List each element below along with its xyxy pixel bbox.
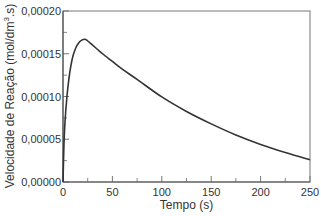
y-tick-label: 0,00000 xyxy=(21,176,61,188)
major-ticks xyxy=(63,11,310,182)
x-tick-labels: 050100150200250 xyxy=(60,186,319,198)
y-tick-label: 0,00015 xyxy=(21,48,61,60)
rate-curve xyxy=(63,39,310,182)
y-tick-label: 0,00010 xyxy=(21,91,61,103)
minor-ticks xyxy=(63,32,285,182)
y-tick-label: 0,00005 xyxy=(21,133,61,145)
x-tick-label: 150 xyxy=(202,186,220,198)
x-tick-label: 100 xyxy=(153,186,171,198)
plot-frame xyxy=(63,11,310,182)
x-tick-label: 200 xyxy=(251,186,269,198)
y-tick-label: 0,00020 xyxy=(21,5,61,17)
x-axis-title: Tempo (s) xyxy=(160,198,213,212)
y-tick-labels: 0,000000,000050,000100,000150,00020 xyxy=(21,5,61,188)
reaction-rate-chart: 050100150200250 0,000000,000050,000100,0… xyxy=(0,0,321,216)
y-axis-title: Velocidade de Reação (mol/dm3.s) xyxy=(2,4,17,189)
x-tick-label: 50 xyxy=(106,186,118,198)
x-tick-label: 250 xyxy=(301,186,319,198)
